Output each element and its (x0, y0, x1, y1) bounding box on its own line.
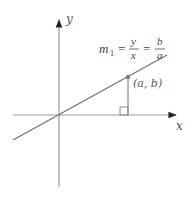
equals-sign-1: = (118, 41, 125, 56)
frac2-numerator: b (157, 35, 163, 47)
frac1-denominator: x (130, 49, 136, 61)
slope-symbol: m (99, 41, 108, 56)
y-axis-label: y (65, 12, 73, 26)
frac1-numerator: y (130, 35, 136, 47)
point-label: (a, b) (133, 77, 162, 90)
slope-diagram: y x (a, b) m 1 = y x = b a (0, 0, 196, 198)
slope-line (13, 55, 167, 140)
frac2-denominator: a (157, 49, 163, 61)
slope-equation: m 1 = y x = b a (99, 35, 165, 61)
x-axis-label: x (176, 119, 183, 133)
equals-sign-2: = (143, 41, 150, 56)
slope-subscript: 1 (110, 49, 114, 58)
point-marker (126, 75, 130, 79)
right-angle-icon (120, 107, 128, 115)
